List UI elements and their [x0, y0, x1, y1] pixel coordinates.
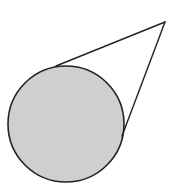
- filled-circle: [8, 66, 124, 182]
- tangent-line-upper: [56, 22, 165, 66]
- diagram-canvas: [0, 0, 176, 196]
- tangent-line-right: [122, 22, 165, 136]
